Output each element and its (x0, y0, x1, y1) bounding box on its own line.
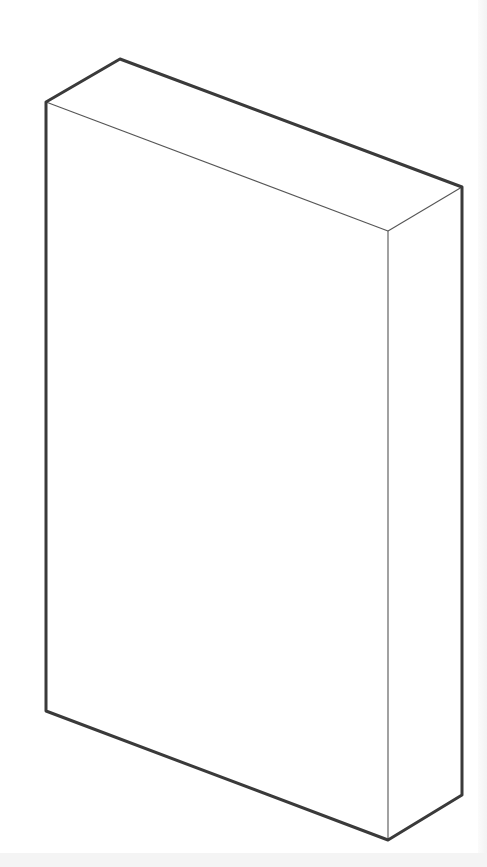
box-side-face (388, 187, 462, 840)
isometric-box-drawing (0, 0, 487, 867)
